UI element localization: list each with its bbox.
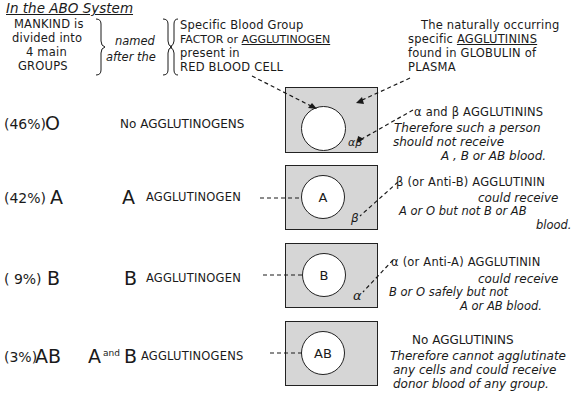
group-o-note-1: Therefore such a person	[394, 122, 541, 134]
group-a-agglutinogen-letter: A	[122, 188, 135, 207]
group-o-agglutinogen-label: No AGGLUTINOGENS	[120, 118, 244, 130]
group-ab-agglutinogen-letter-a: A	[88, 347, 101, 366]
after-the-text: after the	[106, 52, 156, 64]
mankind-line-4: GROUPS	[18, 61, 68, 73]
group-a-note-1: could receive	[478, 192, 558, 204]
named-text: named	[115, 36, 155, 48]
group-o-name: O	[45, 114, 60, 133]
group-ab-agglutinogen-label: AGGLUTINOGENS	[141, 351, 244, 363]
mankind-line-2: divided into	[12, 33, 82, 45]
group-b-percent: ( 9%)	[4, 272, 42, 286]
brace-mid-icon	[163, 19, 172, 75]
group-o-note-2: should not receive	[393, 136, 504, 148]
agglutinogen-term: AGGLUTINOGEN	[242, 33, 331, 46]
group-o-note-3: A , B or AB blood.	[441, 150, 546, 162]
group-ab-agglutinin-title: No AGGLUTININS	[412, 334, 514, 346]
mankind-line-1: MANKIND is	[14, 19, 84, 31]
group-a-note-3: blood.	[536, 220, 572, 232]
agglutinins-term: AGGLUTININS	[457, 32, 537, 46]
group-ab-and: and	[103, 349, 120, 358]
group-o-percent: (46%)	[4, 117, 46, 131]
group-b-agglutinogen-label: AGGLUTINOGEN	[146, 273, 241, 285]
group-b-note-1: could receive	[478, 273, 558, 285]
group-o-plasma-agglutinins: αβ	[348, 137, 362, 148]
group-ab-percent: (3%)	[4, 350, 37, 364]
agglutinin-def-line-1: The naturally occurring	[421, 20, 559, 32]
group-b-note-3: A or AB blood.	[460, 301, 542, 313]
brace-right-icon	[96, 19, 105, 75]
definition-line-2-prefix: FACTOR or	[180, 33, 242, 46]
group-ab-note-1: Therefore cannot agglutinate	[390, 350, 566, 362]
group-ab-name: AB	[35, 347, 61, 366]
group-a-red-cell: A	[301, 175, 345, 219]
group-ab-note-3: donor blood of any group.	[393, 378, 549, 390]
diagram-title: In the ABO System	[6, 2, 133, 16]
group-a-plasma-agglutinin: β	[351, 212, 359, 224]
agglutinin-def-line-2-prefix: specific	[408, 32, 457, 46]
group-a-name: A	[50, 188, 63, 207]
group-b-plasma-agglutinin: α	[353, 289, 362, 302]
agglutinin-def-line-3: found in GLOBULIN of	[408, 48, 536, 60]
group-b-name: B	[47, 269, 60, 288]
group-o-agglutinin-title: α and β AGGLUTININS	[414, 107, 543, 119]
group-b-red-cell: B	[302, 253, 346, 297]
group-b-agglutinin-title: α (or Anti-A) AGGLUTININ	[391, 257, 540, 269]
group-a-agglutinin-title: β (or Anti-B) AGGLUTININ	[396, 177, 545, 189]
group-b-agglutinogen-letter: B	[124, 269, 137, 288]
group-a-percent: (42%)	[4, 191, 46, 205]
group-ab-note-2: any cells and could receive	[393, 364, 556, 376]
definition-line-3: present in	[180, 48, 240, 60]
definition-line-1: Specific Blood Group	[180, 20, 304, 32]
mankind-line-3: 4 main	[26, 47, 67, 59]
group-o-red-cell	[301, 106, 346, 151]
group-b-note-2: B or O safely but not	[389, 287, 508, 299]
group-ab-red-cell: AB	[301, 331, 345, 375]
group-ab-agglutinogen-letter-b: B	[124, 347, 137, 366]
group-a-note-2: A or O but not B or AB	[399, 206, 527, 218]
group-a-agglutinogen-label: AGGLUTINOGEN	[146, 192, 241, 204]
agglutinin-def-line-4: PLASMA	[408, 62, 456, 74]
definition-line-4: RED BLOOD CELL	[180, 62, 283, 74]
